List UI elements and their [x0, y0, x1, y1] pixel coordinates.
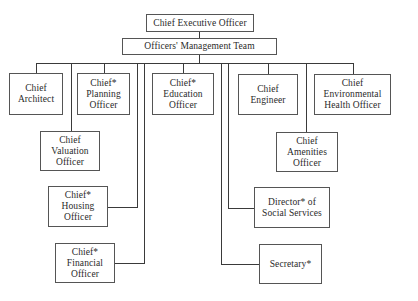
node-label: Environmental	[324, 89, 382, 100]
node-label: Chief	[257, 84, 279, 95]
node-chief-executive-officer: Chief Executive Officer	[146, 14, 254, 32]
connector-housing-v	[137, 63, 138, 208]
connector-social-v	[228, 63, 229, 209]
node-chief-housing-officer: Chief* Housing Officer	[48, 186, 108, 227]
node-label: Secretary*	[270, 259, 312, 270]
node-director-of-social-services: Director* of Social Services	[254, 187, 330, 228]
connector-engineer	[268, 63, 269, 74]
node-label: Financial	[67, 258, 103, 269]
node-label: Officer	[56, 157, 84, 168]
node-label: Planning	[86, 89, 121, 100]
node-label: Officer	[64, 212, 92, 223]
node-label: Housing	[62, 201, 95, 212]
node-label: Officer	[169, 100, 197, 111]
node-chief-education-officer: Chief* Education Officer	[152, 73, 214, 115]
connector-secretary-h	[221, 264, 259, 265]
node-label: Engineer	[250, 95, 285, 106]
node-label: Chief	[296, 136, 318, 147]
node-label: Chief*	[170, 78, 196, 89]
node-label: Architect	[18, 94, 54, 105]
connector-planning	[104, 63, 105, 73]
node-label: Officer	[71, 269, 99, 280]
node-label: Officer	[293, 158, 321, 169]
node-label: Education	[163, 89, 202, 100]
connector-amenities	[306, 63, 307, 132]
node-label: Chief	[25, 83, 47, 94]
node-label: Social Services	[262, 208, 322, 219]
node-label: Amenities	[287, 147, 327, 158]
node-chief-amenities-officer: Chief Amenities Officer	[276, 132, 338, 172]
node-label: Health Officer	[324, 100, 380, 111]
node-secretary: Secretary*	[259, 244, 322, 284]
node-chief-financial-officer: Chief* Financial Officer	[55, 243, 115, 283]
node-label: Director* of	[268, 197, 316, 208]
node-officers-management-team: Officers' Management Team	[122, 38, 277, 55]
node-label: Chief*	[65, 190, 91, 201]
connector-secretary-v	[221, 63, 222, 265]
node-label: Chief	[342, 78, 364, 89]
node-chief-architect: Chief Architect	[9, 73, 63, 115]
node-label: Chief	[59, 135, 81, 146]
node-label: Chief Executive Officer	[153, 18, 246, 29]
connector-social-h	[228, 208, 254, 209]
connector-omt-bus	[199, 54, 200, 63]
node-label: Officers' Management Team	[144, 41, 254, 52]
node-label: Valuation	[51, 146, 88, 157]
connector-valuation	[71, 63, 72, 131]
node-chief-environmental-health-officer: Chief Environmental Health Officer	[314, 74, 391, 115]
node-chief-planning-officer: Chief* Planning Officer	[77, 73, 130, 115]
connector-housing-h	[108, 207, 138, 208]
connector-environmental	[353, 63, 354, 74]
connector-financial-h	[115, 263, 145, 264]
node-chief-valuation-officer: Chief Valuation Officer	[40, 131, 100, 171]
connector-education	[183, 63, 184, 73]
connector-ceo-omt	[199, 31, 200, 38]
connector-financial-v	[144, 63, 145, 264]
node-label: Chief*	[72, 247, 98, 258]
connector-architect	[36, 63, 37, 73]
node-label: Chief*	[90, 78, 116, 89]
node-label: Officer	[90, 100, 118, 111]
node-chief-engineer: Chief Engineer	[238, 74, 298, 115]
